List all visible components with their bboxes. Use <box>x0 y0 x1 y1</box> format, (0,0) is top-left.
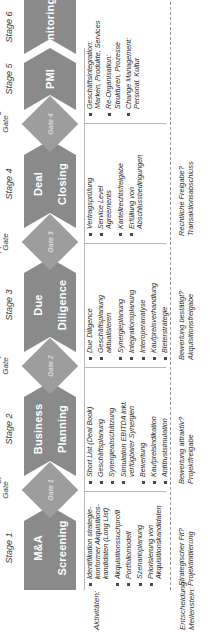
row-label-decision-line1: Entscheidung: <box>178 579 187 630</box>
stage-caption-5: Stage 5 <box>4 48 18 110</box>
activity-item: Service LevelAgreements <box>97 140 113 236</box>
activity-item: Short List (Deal Book) <box>86 386 94 484</box>
rotated-diagram-wrapper: M&A Screening Gate 1 Business Planning G… <box>0 0 222 632</box>
stage-chevron-6[interactable]: Monitoring <box>24 0 76 54</box>
activities-stage-2: Short List (Deal Book)GeschäftsplanungSy… <box>86 386 172 484</box>
activity-item: Vertragsprüfung <box>86 140 94 236</box>
stage-title-3-line1: Due <box>32 276 44 335</box>
stage-title-3-line2: Diligence <box>56 276 68 335</box>
activity-item: Due Diligence <box>86 262 94 360</box>
activities-separator-2 <box>84 367 166 368</box>
activity-item: Identifikation strategie-konformer Akqui… <box>86 500 111 586</box>
activity-item: Simulation EBITDA inkl.verfügbarer Syner… <box>120 386 136 484</box>
gate-caption-3-line2: Gate <box>1 233 10 250</box>
decision-stage-2: Bewertung attraktiv? Projektfreigabe <box>178 384 212 484</box>
activity-item: Erfüllung vonAbschlussbedingungen <box>128 140 144 236</box>
activity-item: Geschäftsplanung <box>97 386 105 484</box>
gate-caption-1-line2: Gate <box>1 481 10 498</box>
activity-item: Geschäftsintegration:Marken, Produkte, S… <box>86 4 102 116</box>
stage-caption-4: Stage 4 <box>4 140 18 228</box>
activities-stage-3: Due DiligenceGeschäftsplanungaktualisier… <box>86 262 172 360</box>
activity-item: Szenarioplanung <box>136 500 144 586</box>
activities-stage-4: VertragsprüfungService LevelAgreementsKa… <box>86 140 172 236</box>
stage-caption-6: Stage 6 <box>4 0 18 54</box>
activities-separator-3 <box>84 243 166 244</box>
activities-stage-5: Geschäftsintegration:Marken, Produkte, S… <box>86 4 172 116</box>
stage-caption-1: Stage 1 <box>4 506 18 590</box>
stage-title-4-line2: Closing <box>56 159 68 209</box>
row-label-decision: Entscheidung: Meilenstein: <box>178 579 196 630</box>
activity-item: Bieterstrategie <box>161 262 169 360</box>
decision-3-milestone: Akquisitionsfreigabe <box>186 294 195 360</box>
row-label-decision-line2: Meilenstein: <box>187 587 196 630</box>
gate-label-2: Gate 2 <box>30 346 70 386</box>
activity-item: Change Management:Personal, Kultur <box>125 4 141 116</box>
activity-item: Synergieabschätzung <box>108 386 116 484</box>
activity-list-3: Due DiligenceGeschäftsplanungaktualisier… <box>86 262 170 360</box>
stage-title-4-line1: Deal <box>32 159 44 209</box>
activities-separator-4 <box>84 123 166 124</box>
activity-item: Re-Organisation:Strukturen, Prozesse <box>105 4 121 116</box>
activity-item: Interoperanalyse <box>139 262 147 360</box>
activity-item: Kartellrechtsfreigabe <box>117 140 125 236</box>
gate-caption-4-line2: Gate <box>1 115 10 132</box>
decision-stage-4: Rechtliche Freigabe? Transaktionsabschlu… <box>178 124 212 236</box>
activity-item: Portfoliomodell <box>125 500 133 586</box>
decision-stage-3: Bewertung bestätigt? Akquisitionsfreigab… <box>178 256 212 360</box>
stage-title-2-line2: Planning <box>56 400 68 459</box>
activity-list-4: VertragsprüfungService LevelAgreementsKa… <box>86 140 144 236</box>
activity-item: Geschäftsplanungaktualisieren <box>97 262 113 360</box>
decision-2-milestone: Projektfreigabe <box>186 434 195 484</box>
stage-title-2-line1: Business <box>32 400 44 459</box>
decision-1-milestone: Projektinitiierung <box>186 531 195 586</box>
gate-label-1: Gate 1 <box>30 470 70 510</box>
stage-title-1-line1: M&A <box>32 517 44 580</box>
stage-chevron-1[interactable]: M&A Screening <box>24 506 76 590</box>
stage-title-5: PMI <box>44 65 56 93</box>
row-label-activities: Aktivitäten: <box>92 591 101 630</box>
ma-process-chart: M&A Screening Gate 1 Business Planning G… <box>0 0 222 632</box>
activity-item: Kaufpreisverhandlung <box>150 262 158 360</box>
gate-label-4: Gate 4 <box>30 104 70 144</box>
gate-caption-2-line2: Gate <box>1 357 10 374</box>
activity-item: Bewertung <box>139 386 147 484</box>
activity-list-2: Short List (Deal Book)GeschäftsplanungSy… <box>86 386 170 484</box>
gate-label-3: Gate 3 <box>30 222 70 262</box>
activity-item: Priorisierung vonAkquisitionskandidaten <box>147 500 163 586</box>
activities-decision-divider <box>170 2 171 590</box>
decision-4-milestone: Transaktionsabschluss <box>186 161 195 236</box>
process-band: M&A Screening Gate 1 Business Planning G… <box>24 0 76 632</box>
activity-item: Integrationsplanung <box>128 262 136 360</box>
activity-item: Synergieplanung <box>117 262 125 360</box>
stage-caption-2: Stage 2 <box>4 382 18 476</box>
activities-stage-1: Identifikation strategie-konformer Akqui… <box>86 500 172 586</box>
stage-caption-3: Stage 3 <box>4 258 18 352</box>
activities-separator-1 <box>84 491 166 492</box>
activity-list-5: Geschäftsintegration:Marken, Produkte, S… <box>86 4 141 116</box>
activity-item: Kaufpreisindikation <box>150 386 158 484</box>
activity-item: Akquisitionssuchprofil <box>114 500 122 586</box>
stage-title-1-line2: Screening <box>56 517 68 580</box>
activity-list-1: Identifikation strategie-konformer Akqui… <box>86 500 164 586</box>
activity-item: Antitrustsimulation <box>161 386 169 484</box>
decision-stage-1: Strategischer Fit? Projektinitiierung <box>178 496 212 586</box>
